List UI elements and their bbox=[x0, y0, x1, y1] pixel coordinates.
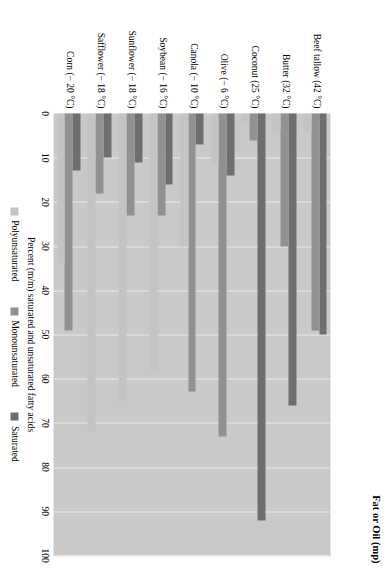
legend-item: Monounsaturated bbox=[9, 307, 19, 387]
bar-mono bbox=[249, 113, 257, 140]
bar-group: Olive (− 6 °C) bbox=[211, 113, 234, 555]
bar-poly bbox=[303, 113, 311, 131]
bar-poly bbox=[118, 113, 126, 400]
category-label: Canola (− 10 °C) bbox=[187, 43, 197, 108]
axis-tick-label: 50 bbox=[39, 329, 53, 339]
bar-poly bbox=[211, 113, 219, 162]
axis-tick-label: 20 bbox=[39, 197, 53, 207]
axis-tick-label: 60 bbox=[39, 373, 53, 383]
bar-poly bbox=[87, 113, 95, 431]
axis-tick-label: 0 bbox=[39, 111, 53, 116]
bar-mono bbox=[218, 113, 226, 436]
category-label: Olive (− 6 °C) bbox=[218, 53, 228, 108]
bar-sat bbox=[226, 113, 234, 175]
category-label: Beef tallow (42 °C) bbox=[310, 33, 320, 108]
bar-group: Soybean (− 16 °C) bbox=[149, 113, 172, 555]
plot-area: Beef tallow (42 °C)Butter (32 °C)Coconut… bbox=[53, 113, 330, 556]
bar-group: Beef tallow (42 °C) bbox=[303, 113, 326, 555]
bar-group: Safflower (− 18 °C) bbox=[87, 113, 110, 555]
bar-mono bbox=[280, 113, 288, 246]
bar-sat bbox=[134, 113, 142, 162]
axis-tick-label: 40 bbox=[39, 285, 53, 295]
bar-sat bbox=[257, 113, 265, 520]
bar-sat bbox=[195, 113, 203, 144]
bar-mono bbox=[95, 113, 103, 193]
bar-poly bbox=[57, 113, 65, 263]
axis-tick-label: 10 bbox=[39, 152, 53, 162]
category-label: Safflower (− 18 °C) bbox=[95, 32, 105, 108]
bar-mono bbox=[188, 113, 196, 391]
bar-group: Sunflower (− 18 °C) bbox=[118, 113, 141, 555]
axis-tick-label: 80 bbox=[39, 462, 53, 472]
bar-group: Canola (− 10 °C) bbox=[180, 113, 203, 555]
category-axis-title: Fat or Oil (mp) bbox=[370, 0, 381, 569]
bar-sat bbox=[319, 113, 327, 334]
bar-poly bbox=[272, 113, 280, 131]
bar-mono bbox=[65, 113, 73, 330]
bar-mono bbox=[311, 113, 319, 330]
axis-tick-label: 90 bbox=[39, 506, 53, 516]
category-label: Coconut (25 °C) bbox=[249, 45, 259, 108]
bar-group: Corn (− 20 °C) bbox=[57, 113, 80, 555]
chart-canvas: Fat or Oil (mp) Beef tallow (42 °C)Butte… bbox=[0, 0, 387, 569]
bar-sat bbox=[103, 113, 111, 157]
legend-label: Monounsaturated bbox=[9, 320, 19, 387]
category-label: Corn (− 20 °C) bbox=[64, 51, 74, 108]
legend-swatch-icon bbox=[10, 207, 18, 215]
bar-mono bbox=[126, 113, 134, 215]
bar-group: Butter (32 °C) bbox=[272, 113, 295, 555]
value-axis-title: Percent (m/m) saturated and unsaturated … bbox=[25, 113, 35, 555]
bar-sat bbox=[72, 113, 80, 170]
bar-sat bbox=[288, 113, 296, 405]
axis-tick-label: 30 bbox=[39, 241, 53, 251]
legend-swatch-icon bbox=[10, 307, 18, 315]
chart-legend: PolyunsaturatedMonounsaturatedSaturated bbox=[9, 113, 19, 555]
bar-poly bbox=[241, 113, 249, 122]
chart-figure: Fat or Oil (mp) Beef tallow (42 °C)Butte… bbox=[0, 0, 387, 569]
bar-mono bbox=[157, 113, 165, 215]
category-label: Sunflower (− 18 °C) bbox=[125, 30, 135, 108]
bar-group: Coconut (25 °C) bbox=[241, 113, 264, 555]
legend-item: Saturated bbox=[9, 412, 19, 461]
bar-sat bbox=[165, 113, 173, 184]
bar-poly bbox=[149, 113, 157, 369]
legend-label: Polyunsaturated bbox=[9, 220, 19, 281]
category-label: Butter (32 °C) bbox=[279, 54, 289, 108]
axis-tick-label: 70 bbox=[39, 418, 53, 428]
bar-poly bbox=[180, 113, 188, 246]
legend-label: Saturated bbox=[9, 425, 19, 461]
category-label: Soybean (− 16 °C) bbox=[156, 37, 166, 108]
legend-swatch-icon bbox=[10, 412, 18, 420]
legend-item: Polyunsaturated bbox=[9, 207, 19, 281]
axis-tick-label: 100 bbox=[39, 548, 53, 562]
